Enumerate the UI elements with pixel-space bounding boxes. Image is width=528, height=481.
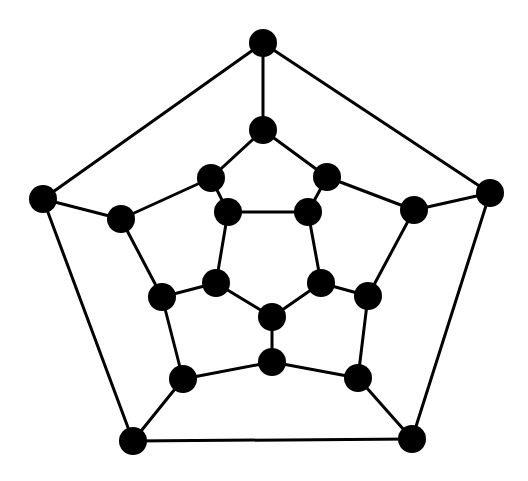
node-m2 — [313, 163, 341, 191]
node-o4 — [119, 427, 147, 455]
node-o2 — [476, 179, 504, 207]
node-m1 — [249, 116, 277, 144]
node-o5 — [29, 185, 57, 213]
node-m6 — [258, 348, 286, 376]
node-m10 — [197, 164, 225, 192]
dodecahedron-graph — [0, 0, 528, 481]
node-m7 — [169, 365, 197, 393]
node-i5 — [202, 269, 230, 297]
node-m3 — [400, 196, 428, 224]
node-i2 — [294, 198, 322, 226]
node-i1 — [214, 198, 242, 226]
edge-m3-m4 — [368, 210, 414, 296]
node-m5 — [344, 364, 372, 392]
node-m9 — [107, 205, 135, 233]
nodes-layer — [29, 29, 504, 455]
edge-m9-m10 — [121, 178, 211, 219]
node-i4 — [258, 303, 286, 331]
edge-o4-o5 — [43, 199, 133, 441]
node-m4 — [354, 282, 382, 310]
edge-o5-o1 — [43, 43, 263, 199]
edge-o3-o4 — [133, 439, 412, 441]
edge-o1-o2 — [263, 43, 490, 193]
node-m8 — [148, 283, 176, 311]
edges-layer — [43, 43, 490, 441]
node-o3 — [398, 425, 426, 453]
node-o1 — [249, 29, 277, 57]
node-i3 — [307, 269, 335, 297]
edge-o2-o3 — [412, 193, 490, 439]
